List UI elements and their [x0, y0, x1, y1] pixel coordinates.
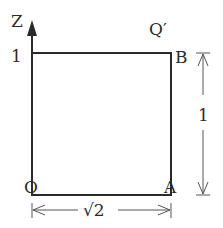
- rectangle-oabq: [32, 53, 171, 195]
- z-axis-arrowhead: [27, 20, 37, 36]
- label-o: O: [24, 177, 38, 197]
- label-b: B: [175, 47, 188, 67]
- label-a: A: [163, 177, 177, 197]
- diagram: Z 1 Q′ B O A 1 √2: [0, 0, 223, 228]
- z-tick-label-1: 1: [11, 46, 22, 66]
- z-axis-label: Z: [11, 11, 23, 31]
- label-q-prime: Q′: [149, 19, 167, 39]
- height-dim-label: 1: [198, 105, 209, 125]
- width-dim-label: √2: [83, 200, 105, 220]
